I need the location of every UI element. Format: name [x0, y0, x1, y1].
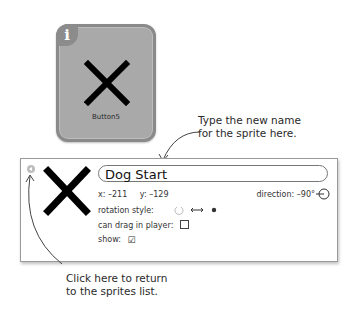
show-row: show: ☑ [98, 235, 136, 244]
sprite-name-input[interactable]: Dog Start [98, 165, 328, 182]
rotation-style-label: rotation style: [98, 206, 154, 215]
x-label: x: [98, 190, 105, 199]
direction-label: direction: [257, 190, 295, 199]
show-label: show: [98, 235, 121, 244]
left-right-icon[interactable] [190, 205, 204, 215]
direction-value: –90° [297, 190, 315, 199]
dont-rotate-icon[interactable] [210, 205, 218, 215]
callout-text: Click here to return [66, 272, 167, 285]
callout-text: to the sprites list. [66, 285, 167, 298]
y-value: –129 [149, 190, 168, 199]
can-drag-row: can drag in player: [98, 220, 189, 230]
sprite-tile-button5[interactable]: i Button5 [56, 24, 156, 142]
can-drag-label: can drag in player: [98, 221, 173, 230]
can-drag-checkbox[interactable] [180, 220, 189, 229]
x-cross-icon [84, 60, 130, 106]
info-badge-icon[interactable]: i [56, 24, 78, 46]
back-callout: Click here to return to the sprites list… [66, 272, 167, 298]
show-checkbox[interactable]: ☑ [127, 237, 135, 244]
sprite-name-label: Button5 [59, 113, 153, 121]
rotate-icon[interactable] [174, 205, 184, 215]
callout-text: for the sprite here. [198, 127, 301, 140]
callout-text: Type the new name [198, 114, 301, 127]
position-row: x: –211 y: –129 [98, 190, 169, 199]
rotation-style-row: rotation style: [98, 205, 218, 217]
direction-dial-icon[interactable] [315, 187, 331, 201]
callout-arrow-icon [20, 172, 70, 272]
y-label: y: [140, 190, 147, 199]
x-value: –211 [108, 190, 127, 199]
direction-display: direction: –90° [257, 190, 316, 199]
rename-callout: Type the new name for the sprite here. [198, 114, 301, 140]
